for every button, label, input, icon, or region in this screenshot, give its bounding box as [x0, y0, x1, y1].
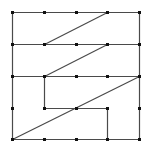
grid-dot	[11, 107, 14, 110]
grid-dot	[43, 75, 46, 78]
grid-dot	[75, 43, 78, 46]
grid-dot	[138, 107, 141, 110]
grid-dot	[138, 11, 141, 14]
grid-dot	[11, 11, 14, 14]
grid-dot	[43, 43, 46, 46]
grid-dot	[106, 43, 109, 46]
grid-dot	[75, 11, 78, 14]
grid-dot	[106, 75, 109, 78]
grid-dot	[11, 138, 14, 141]
grid-dot	[11, 43, 14, 46]
grid-dot	[106, 11, 109, 14]
segment-diagonal-middle	[45, 45, 108, 77]
grid-dot	[138, 43, 141, 46]
grid-dot	[106, 138, 109, 141]
grid-dot	[138, 75, 141, 78]
grid-dot	[75, 107, 78, 110]
segment-diagonal-upper	[45, 13, 108, 45]
grid-dot	[43, 11, 46, 14]
grid-dot	[43, 107, 46, 110]
grid-dot	[75, 75, 78, 78]
grid-dot	[75, 138, 78, 141]
grid-dot	[106, 107, 109, 110]
grid-dot	[11, 75, 14, 78]
grid-diagram	[0, 0, 147, 146]
grid-dot	[138, 138, 141, 141]
grid-dot	[43, 138, 46, 141]
